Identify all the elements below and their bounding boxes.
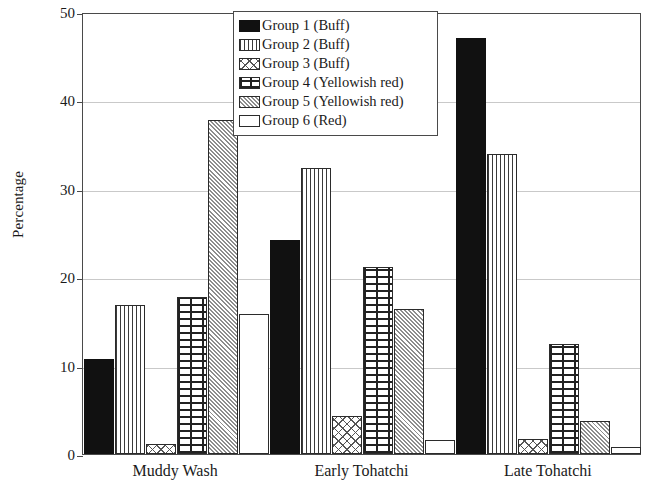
bar-muddy-wash-series-4 bbox=[177, 297, 207, 454]
bar-early-tohatchi-series-6 bbox=[425, 440, 455, 454]
legend-swatch-icon-4 bbox=[239, 77, 260, 89]
legend-item-label: Group 4 (Yellowish red) bbox=[262, 75, 404, 90]
x-axis-label-early-tohatchi: Early Tohatchi bbox=[272, 462, 452, 480]
legend-item-label: Group 1 (Buff) bbox=[262, 18, 350, 33]
tick-mark bbox=[77, 456, 83, 457]
legend-item-3: Group 3 (Buff) bbox=[239, 54, 432, 73]
bar-late-tohatchi-series-6 bbox=[611, 447, 641, 454]
legend-item-6: Group 6 (Red) bbox=[239, 111, 432, 130]
legend-item-label: Group 5 (Yellowish red) bbox=[262, 94, 404, 109]
legend-swatch-icon-5 bbox=[239, 96, 260, 108]
bar-late-tohatchi-series-2 bbox=[487, 154, 517, 454]
bar-early-tohatchi-series-1 bbox=[270, 240, 300, 454]
bar-late-tohatchi-series-1 bbox=[456, 38, 486, 454]
legend-item-5: Group 5 (Yellowish red) bbox=[239, 92, 432, 111]
x-axis-label-muddy-wash: Muddy Wash bbox=[85, 462, 265, 480]
bar-late-tohatchi-series-4 bbox=[549, 344, 579, 455]
legend-swatch-icon-6 bbox=[239, 115, 260, 127]
legend-item-label: Group 6 (Red) bbox=[262, 113, 347, 128]
bar-muddy-wash-series-3 bbox=[146, 444, 176, 454]
legend-item-4: Group 4 (Yellowish red) bbox=[239, 73, 432, 92]
y-axis-tick-label: 20 bbox=[29, 271, 75, 286]
legend-swatch-icon-2 bbox=[239, 39, 260, 51]
legend-item-label: Group 2 (Buff) bbox=[262, 37, 350, 52]
y-axis-tick-label: 30 bbox=[29, 183, 75, 198]
bar-muddy-wash-series-2 bbox=[115, 305, 145, 454]
legend-item-2: Group 2 (Buff) bbox=[239, 35, 432, 54]
y-axis-tick-label: 10 bbox=[29, 360, 75, 375]
bar-muddy-wash-series-5 bbox=[208, 120, 238, 454]
legend-swatch-icon-1 bbox=[239, 20, 260, 32]
bar-early-tohatchi-series-4 bbox=[363, 267, 393, 454]
legend: Group 1 (Buff)Group 2 (Buff)Group 3 (Buf… bbox=[233, 11, 438, 136]
legend-swatch-icon-3 bbox=[239, 58, 260, 70]
y-axis-title: Percentage bbox=[10, 150, 27, 260]
bar-muddy-wash-series-6 bbox=[239, 314, 269, 454]
y-axis-tick-label: 0 bbox=[29, 448, 75, 463]
y-axis-tick-label: 50 bbox=[29, 6, 75, 21]
bar-early-tohatchi-series-5 bbox=[394, 309, 424, 454]
bar-early-tohatchi-series-2 bbox=[301, 168, 331, 454]
bar-muddy-wash-series-1 bbox=[84, 359, 114, 454]
y-axis-tick-label: 40 bbox=[29, 94, 75, 109]
legend-item-label: Group 3 (Buff) bbox=[262, 56, 350, 71]
x-axis-label-late-tohatchi: Late Tohatchi bbox=[458, 462, 638, 480]
legend-item-1: Group 1 (Buff) bbox=[239, 16, 432, 35]
bar-early-tohatchi-series-3 bbox=[332, 416, 362, 454]
bar-chart: Percentage 01020304050 Muddy WashEarly T… bbox=[0, 0, 651, 492]
bar-late-tohatchi-series-3 bbox=[518, 439, 548, 454]
bar-late-tohatchi-series-5 bbox=[580, 421, 610, 454]
